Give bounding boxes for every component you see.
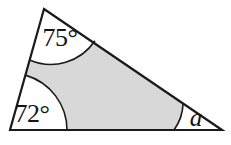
top-angle-label: 75° — [43, 23, 78, 52]
bottom-right-angle-label: a — [190, 104, 203, 131]
triangle-angles-figure: 75° 72° a — [0, 0, 231, 145]
triangle-diagram-svg: 75° 72° a — [0, 0, 231, 145]
bottom-left-angle-label: 72° — [15, 99, 50, 128]
